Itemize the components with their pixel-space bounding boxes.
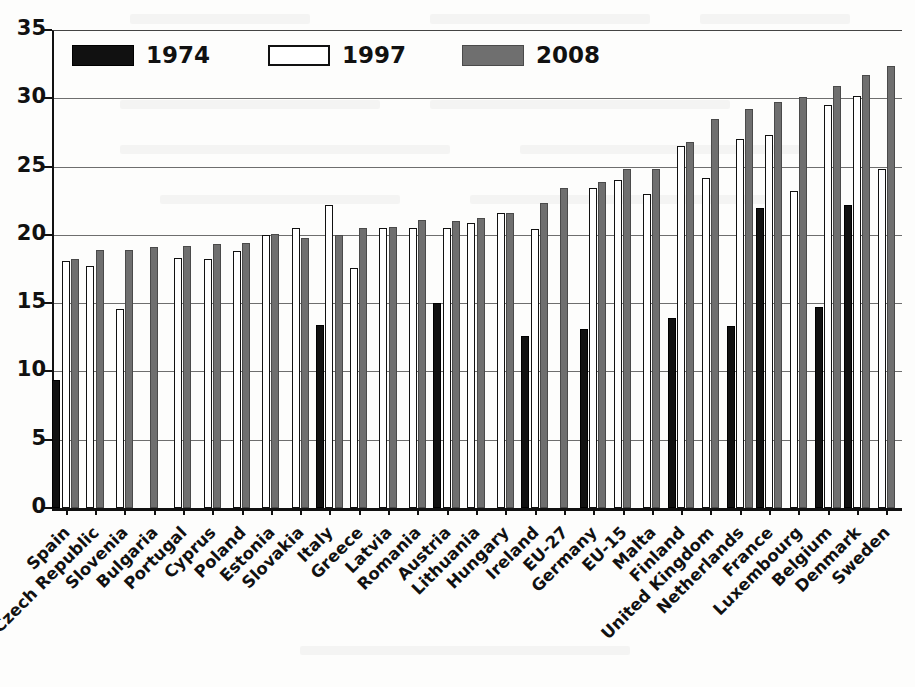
bar-1997[interactable] [702,178,710,509]
x-axis-tick [769,508,771,515]
bar-2008[interactable] [711,119,719,508]
bar-2008[interactable] [271,234,279,509]
bar-1974[interactable] [52,380,60,508]
bar-2008[interactable] [418,220,426,508]
bar-2008[interactable] [96,250,104,508]
bar-2008[interactable] [745,109,753,508]
bar-2008[interactable] [506,213,514,508]
bar-1997[interactable] [204,259,212,508]
bar-2008[interactable] [359,228,367,508]
bar-2008[interactable] [183,246,191,508]
x-axis-tick [183,508,185,515]
bar-1997[interactable] [643,194,651,508]
bar-1974[interactable] [580,329,588,508]
bar-2008[interactable] [560,188,568,508]
bar-group [550,30,579,508]
x-axis-tick [359,508,361,515]
bar-1997[interactable] [790,191,798,508]
bar-group [785,30,814,508]
bar-group [433,30,462,508]
y-axis-tick-label: 25 [6,155,46,176]
bar-1974[interactable] [433,303,441,508]
legend-item-2008[interactable]: 2008 [462,42,600,68]
bar-2008[interactable] [213,244,221,508]
x-axis-tick [623,508,625,515]
bar-1997[interactable] [497,213,505,508]
bar-2008[interactable] [623,169,631,508]
bar-2008[interactable] [652,169,660,508]
bar-1974[interactable] [316,325,324,508]
bar-1997[interactable] [233,251,241,508]
bar-1997[interactable] [531,229,539,508]
bar-1997[interactable] [86,266,94,508]
x-axis-tick [476,508,478,515]
bar-1997[interactable] [350,268,358,508]
bar-2008[interactable] [242,243,250,508]
bar-series-container [52,30,902,508]
bar-group [257,30,286,508]
bar-2008[interactable] [150,247,158,508]
bar-2008[interactable] [335,235,343,508]
bar-1997[interactable] [262,235,270,508]
bar-2008[interactable] [774,102,782,508]
bar-group [81,30,110,508]
bar-1997[interactable] [62,261,70,508]
y-axis-tick [43,370,52,372]
bar-2008[interactable] [477,218,485,508]
bar-1997[interactable] [736,139,744,508]
bar-1997[interactable] [325,205,333,508]
bar-group [755,30,784,508]
y-axis-tick [43,507,52,509]
y-axis-tick-label: 20 [6,223,46,244]
bar-1974[interactable] [521,336,529,508]
bar-2008[interactable] [71,259,79,508]
bar-2008[interactable] [125,250,133,508]
y-axis-tick-label: 15 [6,291,46,312]
bar-1974[interactable] [756,208,764,508]
bar-1997[interactable] [443,228,451,508]
bar-2008[interactable] [799,97,807,508]
bar-2008[interactable] [686,142,694,508]
x-axis-tick [242,508,244,515]
bar-1997[interactable] [292,228,300,508]
bar-1997[interactable] [853,96,861,508]
bar-group [609,30,638,508]
legend-swatch-1974-icon [72,45,134,66]
bar-1974[interactable] [815,307,823,508]
bar-1997[interactable] [824,105,832,508]
x-axis-tick [798,508,800,515]
bar-2008[interactable] [598,182,606,508]
legend-item-1997[interactable]: 1997 [268,42,406,68]
x-axis-tick [593,508,595,515]
bar-2008[interactable] [540,203,548,508]
y-axis-tick-label: 0 [6,496,46,517]
bar-1997[interactable] [589,188,597,508]
bar-1997[interactable] [409,228,417,508]
y-axis-tick [43,29,52,31]
bar-1997[interactable] [614,180,622,508]
bar-1997[interactable] [878,169,886,508]
bar-2008[interactable] [862,75,870,508]
bar-1997[interactable] [379,228,387,508]
bar-1997[interactable] [467,223,475,508]
x-axis-tick [828,508,830,515]
bar-1974[interactable] [844,205,852,508]
bar-2008[interactable] [833,86,841,508]
bar-2008[interactable] [389,227,397,508]
bar-2008[interactable] [887,66,895,508]
page-ghost-texture [430,14,650,24]
y-axis-tick [43,439,52,441]
bar-chart: 05101520253035 SpainCzech RepublicSloven… [0,0,915,687]
bar-1974[interactable] [727,326,735,508]
bar-1997[interactable] [765,135,773,508]
bar-1997[interactable] [677,146,685,508]
bar-group [726,30,755,508]
bar-2008[interactable] [301,238,309,508]
x-axis-tick [417,508,419,515]
bar-group [404,30,433,508]
bar-1974[interactable] [668,318,676,508]
legend-item-1974[interactable]: 1974 [72,42,210,68]
bar-1997[interactable] [174,258,182,508]
bar-2008[interactable] [452,221,460,508]
bar-1997[interactable] [116,309,124,508]
